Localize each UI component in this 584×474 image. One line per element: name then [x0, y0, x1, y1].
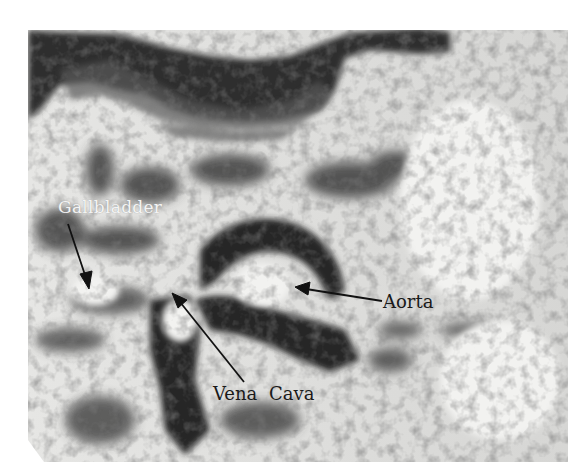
ultrasound-figure: Gallbladder Aorta Vena Cava: [0, 0, 584, 474]
vena-cava-label: Vena Cava: [213, 385, 314, 403]
gallbladder-label: Gallbladder: [58, 199, 162, 216]
aorta-label: Aorta: [383, 293, 433, 311]
